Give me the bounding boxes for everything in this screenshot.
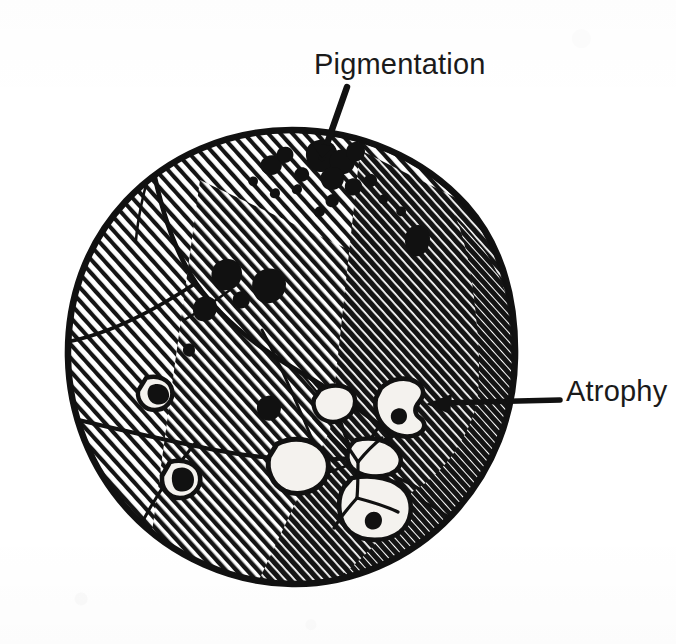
label-atrophy: Atrophy: [566, 377, 667, 406]
label-pigmentation: Pigmentation: [314, 50, 486, 79]
fundus-figure: Pigmentation Atrophy: [0, 0, 676, 644]
atrophy-patch-right: [375, 379, 424, 437]
fundus-disc: [50, 115, 540, 605]
fundus-illustration: [0, 0, 676, 644]
atrophy-patch-upper-mid: [314, 386, 356, 422]
atrophy-patch-left-centre: [268, 439, 328, 493]
